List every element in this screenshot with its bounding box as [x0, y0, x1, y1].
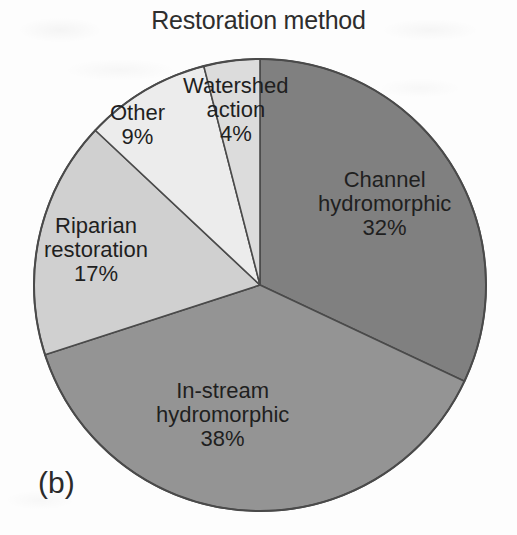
slice-value-other: 9% — [110, 125, 165, 149]
slice-label-channel-hydromorphic: Channel hydromorphic 32% — [318, 168, 451, 239]
slice-label-riparian-line1: Riparian — [44, 214, 148, 238]
slice-label-watershed-line2: action — [183, 98, 289, 122]
slice-label-other-line1: Other — [110, 101, 165, 125]
slice-label-watershed-action: Watershed action 4% — [183, 74, 289, 145]
slice-label-riparian-line2: restoration — [44, 238, 148, 262]
slice-value-watershed: 4% — [183, 122, 289, 146]
slice-value-instream: 38% — [156, 427, 289, 451]
panel-label: (b) — [38, 466, 75, 500]
slice-value-channel: 32% — [318, 216, 451, 240]
slice-label-riparian-restoration: Riparian restoration 17% — [44, 214, 148, 285]
slice-label-channel-line2: hydromorphic — [318, 192, 451, 216]
slice-value-riparian: 17% — [44, 262, 148, 286]
slice-label-other: Other 9% — [110, 101, 165, 149]
slice-label-instream-line1: In-stream — [156, 379, 289, 403]
slice-label-instream-line2: hydromorphic — [156, 403, 289, 427]
slice-label-watershed-line1: Watershed — [183, 74, 289, 98]
slice-label-channel-line1: Channel — [318, 168, 451, 192]
slice-label-in-stream-hydromorphic: In-stream hydromorphic 38% — [156, 379, 289, 450]
